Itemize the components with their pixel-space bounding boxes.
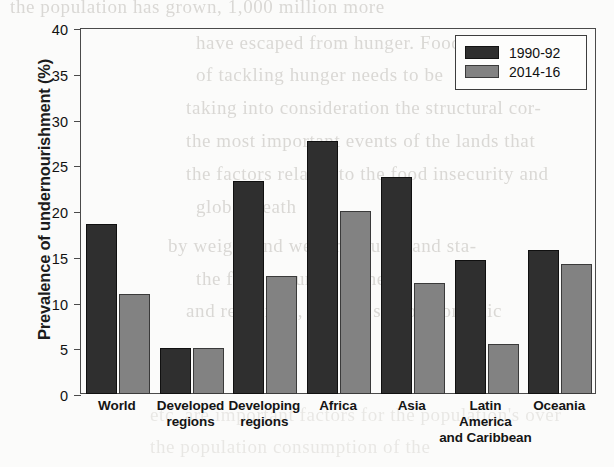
legend-entry-1990-92: 1990-92 <box>465 43 577 62</box>
legend-label: 2014-16 <box>509 64 560 80</box>
x-axis-category-label: Oceania <box>508 398 610 414</box>
x-axis-label-line: and Caribbean <box>435 430 537 446</box>
bar <box>528 250 559 394</box>
y-axis-tick-label: 15 <box>52 251 68 267</box>
x-axis-label-line: Oceania <box>508 398 610 414</box>
bar <box>381 177 412 394</box>
scanned-page: the population has grown, 1,000 million … <box>0 0 614 467</box>
bar-group <box>154 28 228 394</box>
bar-chart-figure: Prevalence of undernourishment (%) 05101… <box>0 0 614 467</box>
bar <box>193 348 224 394</box>
bar <box>160 348 191 394</box>
legend-label: 1990-92 <box>509 45 560 61</box>
bar <box>340 211 371 394</box>
y-axis-tick-label: 35 <box>52 68 68 84</box>
bar-group <box>375 28 449 394</box>
bar-group <box>301 28 375 394</box>
y-axis-tick-label: 5 <box>60 342 68 358</box>
bar <box>455 260 486 395</box>
y-axis-tick-label: 40 <box>52 22 68 38</box>
y-axis-title: Prevalence of undernourishment (%) <box>35 0 54 400</box>
y-axis-tick-label: 20 <box>52 205 68 221</box>
bar-group <box>227 28 301 394</box>
gray-swatch-icon <box>465 65 499 78</box>
bar <box>414 283 445 394</box>
dark-swatch-icon <box>465 46 499 59</box>
x-axis-labels: WorldDevelopedregionsDevelopingregionsAf… <box>80 398 596 466</box>
bar <box>86 224 117 394</box>
bar <box>488 344 519 394</box>
y-axis-tick-label: 25 <box>52 159 68 175</box>
chart-legend: 1990-92 2014-16 <box>455 35 587 90</box>
bar <box>266 276 297 394</box>
bar <box>307 141 338 394</box>
legend-entry-2014-16: 2014-16 <box>465 62 577 81</box>
y-axis-tick: 0 <box>74 395 81 396</box>
bar <box>233 181 264 394</box>
x-axis-label-line: America <box>435 414 537 430</box>
y-axis-tick-label: 10 <box>52 296 68 312</box>
x-axis-label-line: regions <box>213 414 315 430</box>
bar-group <box>80 28 154 394</box>
bar <box>119 294 150 394</box>
y-axis-tick-label: 30 <box>52 113 68 129</box>
bar <box>561 264 592 394</box>
